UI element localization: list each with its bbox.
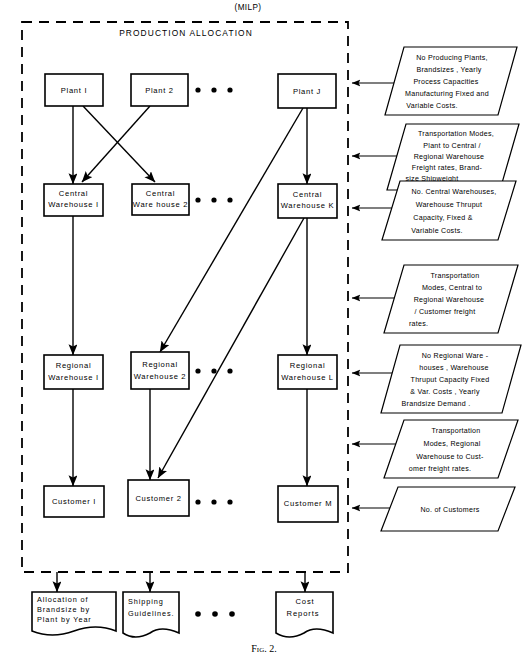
input-transport-pw-line-3: Regional Warehouse [414,153,484,161]
input-transport-pw-line-1: Transportation Modes, [418,130,494,138]
input-customers-line-1: No. of Customers [420,506,479,514]
node-plant-j-label: Plant J [293,87,321,96]
node-regional-warehouse-1-label-line1: Regional [56,361,92,370]
input-rw-line-2: houses , Warehouse [419,364,488,372]
input-trc-line-3: Warehouse to Cust- [416,453,484,461]
node-regional-warehouse-2-label-line1: Regional [142,360,178,369]
input-plants-line-4: Manufacturing Fixed and [405,90,489,98]
output-shipping-guidelines[interactable]: Shipping Guidelines. [123,592,179,637]
node-regional-warehouse-2-label-line2: Warehouse 2 [134,372,187,381]
input-tcr-line-3: Regional Warehouse [414,296,484,304]
input-plants-line-3: Process Capacities [413,78,478,86]
node-plant-2-label: Plant 2 [145,86,174,95]
node-plant-j[interactable]: Plant J [278,74,336,108]
node-central-warehouse-2-label-line1: Central [146,189,175,198]
node-customer-2-label: Customer 2 [135,494,181,503]
node-central-warehouse-1[interactable]: Central Warehouse I [44,184,103,216]
node-central-warehouse-k[interactable]: Central Warehouse K [278,184,337,218]
input-rw-line-1: No Regional Ware - [422,352,489,360]
input-cw-line-4: Variable Costs. [411,227,462,235]
node-regional-warehouse-1-label-line2: Warehouse I [48,373,98,382]
input-cw-line-3: Capacity, Fixed & [413,214,472,222]
output-shipping-line-1: Shipping [128,597,164,606]
node-regional-warehouse-l-label-line1: Regional [290,361,326,370]
node-central-warehouse-2-label-line2: Ware house 2 [133,200,188,209]
input-plants-line-1: No Producing Plants, [416,54,488,62]
node-plant-2[interactable]: Plant 2 [131,74,188,106]
node-customer-2[interactable]: Customer 2 [128,480,189,516]
node-customer-m-label: Customer M [284,499,332,508]
node-plant-1[interactable]: Plant I [45,74,103,106]
node-central-warehouse-1-label-line1: Central [59,189,88,198]
input-rw-line-3: Thruput Capacity Fixed [411,376,490,384]
node-regional-warehouse-2[interactable]: Regional Warehouse 2 [131,352,189,389]
input-cw-line-2: Warehouse Thruput [416,201,483,209]
output-allocation-line-3: Plant by Year [37,615,92,624]
region-title: PRODUCTION ALLOCATION [119,28,253,38]
input-trc-line-4: omer freight rates. [409,465,471,473]
node-central-warehouse-1-label-line2: Warehouse I [48,200,98,209]
input-rw-line-5: Brandsize Demand . [402,400,471,408]
node-central-warehouse-k-label-line1: Central [293,190,322,199]
output-cost-reports[interactable]: Cost Reports [276,592,333,637]
node-plant-1-label: Plant I [61,86,87,95]
input-tcr-line-4: / Customer freight [415,308,476,316]
input-rw-line-4: & Var. Costs , Yearly [410,388,480,396]
output-shipping-line-2: Guidelines. [128,609,174,618]
output-cost-line-1: Cost [295,597,314,606]
input-plants-line-5: Variable Costs. [406,102,457,110]
input-plants-line-2: Brandsizes , Yearly [416,66,481,74]
node-customer-1[interactable]: Customer I [44,486,104,517]
output-allocation-line-2: Brandsize by [37,605,90,614]
input-trc-line-1: Transportation [432,427,481,435]
node-regional-warehouse-1[interactable]: Regional Warehouse I [44,355,103,389]
input-tcr-line-5: rates. [409,320,428,328]
input-trc-line-2: Modes, Regional [424,440,481,448]
input-transport-central-to-regional[interactable]: Transportation Modes, Central to Regiona… [384,265,518,333]
input-customers[interactable]: No. of Customers [381,487,515,531]
input-tcr-line-2: Modes, Central to [422,284,482,292]
input-regional-warehouses[interactable]: No Regional Ware - houses , Warehouse Th… [381,345,521,413]
node-central-warehouse-k-label-line2: Warehouse K [281,201,334,210]
input-cw-line-1: No. Central Warehouses, [411,188,496,196]
node-regional-warehouse-l[interactable]: Regional Warehouse L [278,355,337,389]
figure-diagram: (MILP) PRODUCTION ALLOCATION [0,0,528,661]
output-cost-line-2: Reports [287,609,320,618]
input-transport-regional-to-customer[interactable]: Transportation Modes, Regional Warehouse… [384,420,518,478]
node-customer-m[interactable]: Customer M [278,486,338,522]
output-allocation-line-1: Allocation of [37,595,89,604]
figure-caption: Fig. 2. [251,643,276,654]
input-tcr-line-1: Transportation [431,272,480,280]
node-central-warehouse-2[interactable]: Central Ware house 2 [132,184,189,215]
input-plants[interactable]: No Producing Plants, Brandsizes , Yearly… [385,47,517,115]
input-transport-pw-line-4: Freight rates, Brand- [412,164,483,172]
input-transport-pw-line-2: Plant to Central / [423,142,480,150]
node-customer-1-label: Customer I [52,497,96,506]
node-regional-warehouse-l-label-line2: Warehouse L [281,373,334,382]
input-central-warehouses[interactable]: No. Central Warehouses, Warehouse Thrupu… [382,181,516,240]
input-transport-plant-to-warehouse[interactable]: Transportation Modes, Plant to Central /… [387,124,519,190]
figure-top-title: (MILP) [235,3,262,12]
